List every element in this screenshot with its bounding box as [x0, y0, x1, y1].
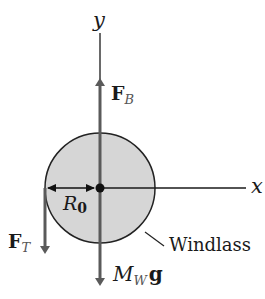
force-mwg-suffix: g [149, 262, 163, 286]
force-label-ft: FT [8, 232, 30, 251]
radius-label: R0 [63, 194, 87, 213]
radius-subscript: 0 [77, 200, 87, 216]
force-mwg-symbol: M [113, 262, 133, 286]
force-label-fb: FB [111, 84, 134, 103]
force-label-mwg: MWg [113, 264, 163, 284]
center-pivot-dot [96, 184, 105, 193]
force-fb-subscript: B [125, 92, 135, 107]
y-axis-label: y [93, 10, 105, 31]
windlass-free-body-diagram: y x FB R0 FT MWg Windlass [0, 0, 265, 299]
radius-symbol: R [63, 192, 77, 214]
windlass-leader-line [145, 232, 164, 246]
force-fb-symbol: F [111, 82, 125, 104]
force-ft-subscript: T [22, 240, 31, 255]
windlass-label: Windlass [169, 236, 251, 254]
force-mwg-subscript: W [133, 273, 146, 288]
x-axis-label: x [251, 176, 263, 197]
force-ft-symbol: F [8, 230, 22, 252]
